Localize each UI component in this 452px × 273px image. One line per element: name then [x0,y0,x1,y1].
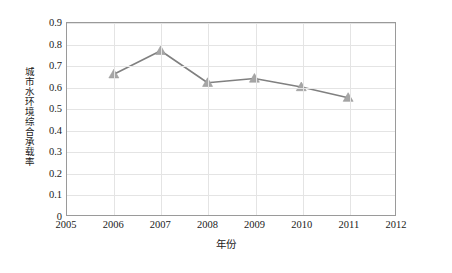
gridline-vertical [256,23,257,215]
y-axis-tick-label: 0.5 [36,103,62,114]
y-axis-tick-label: 0.1 [36,189,62,200]
gridline-horizontal [67,174,395,175]
x-axis-tick-label: 2005 [56,219,77,230]
y-axis-tick-label: 0.4 [36,124,62,135]
gridline-horizontal [67,23,395,24]
line-chart: 城市水环境综合承载率 00.10.20.30.40.50.60.70.80.9 … [0,0,452,273]
y-axis-tick-label: 0.9 [36,17,62,28]
x-axis-tick-label: 2008 [197,219,218,230]
gridline-horizontal [67,109,395,110]
x-axis-tick-label: 2010 [291,219,312,230]
x-axis-tick-label: 2012 [386,219,407,230]
plot-area [66,22,396,216]
gridline-vertical [208,23,209,215]
data-series-line [67,23,395,215]
gridline-horizontal [67,152,395,153]
gridline-horizontal [67,66,395,67]
x-axis-tick-label: 2007 [150,219,171,230]
x-axis-tick-label: 2006 [103,219,124,230]
y-axis-tick-label: 0.2 [36,167,62,178]
series-line [114,51,348,98]
gridline-horizontal [67,88,395,89]
gridline-vertical [303,23,304,215]
x-axis-tick-label: 2009 [244,219,265,230]
y-axis-tick-label: 0.6 [36,81,62,92]
data-point-marker [249,74,259,83]
gridline-horizontal [67,131,395,132]
x-axis-tick-label: 2011 [339,219,360,230]
gridline-horizontal [67,45,395,46]
y-axis-tick-label: 0.7 [36,60,62,71]
gridline-vertical [114,23,115,215]
gridline-vertical [161,23,162,215]
y-axis-title: 城市水环境综合承载率 [21,42,37,192]
gridline-horizontal [67,195,395,196]
x-axis-title: 年份 [0,236,452,251]
y-axis-tick-label: 0.3 [36,146,62,157]
y-axis-tick-label: 0.8 [36,38,62,49]
x-axis-tick-labels: 20052006200720082009201020112012 [0,219,452,237]
gridline-vertical [350,23,351,215]
